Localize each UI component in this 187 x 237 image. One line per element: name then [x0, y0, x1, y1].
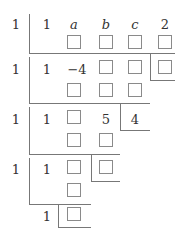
coef-2-0: 1	[43, 63, 51, 77]
blank-box	[67, 83, 81, 97]
blank-box	[67, 133, 81, 147]
divisor-4: 1	[12, 163, 20, 177]
coef-5-0: 1	[43, 210, 51, 224]
remainder-divider-vertical	[58, 204, 59, 228]
remainder-divider-vertical	[150, 53, 151, 80]
coef-1-0: 1	[43, 18, 51, 32]
coef-b: b	[102, 18, 110, 32]
remainder-blank-box	[99, 160, 113, 174]
coef-4-0: 1	[43, 163, 51, 177]
remainder-divider-horizontal	[150, 80, 175, 81]
remainder-divider-horizontal	[120, 130, 150, 131]
divisor-1: 1	[12, 18, 20, 32]
blank-box	[128, 83, 142, 97]
coef-c: c	[131, 18, 138, 32]
divisor-3: 1	[12, 113, 20, 127]
divider-horizontal	[29, 154, 120, 155]
blank-box	[158, 35, 172, 49]
coef-minus-4: −4	[67, 63, 86, 77]
remainder-4: 4	[131, 113, 139, 127]
blank-box	[99, 60, 113, 74]
blank-box	[67, 110, 81, 124]
divider-vertical	[29, 14, 30, 54]
divider-vertical	[29, 158, 30, 204]
blank-box	[99, 83, 113, 97]
blank-box	[99, 35, 113, 49]
remainder-divider-horizontal	[91, 181, 120, 182]
divider-vertical	[29, 107, 30, 154]
blank-box	[128, 35, 142, 49]
coef-2: 2	[161, 18, 169, 32]
blank-box	[67, 160, 81, 174]
coef-3-0: 1	[43, 113, 51, 127]
remainder-divider-vertical	[91, 154, 92, 181]
blank-box	[128, 60, 142, 74]
remainder-divider-horizontal	[58, 227, 91, 228]
coef-5: 5	[102, 113, 110, 127]
blank-box	[99, 133, 113, 147]
divider-horizontal	[29, 103, 150, 104]
coef-a: a	[70, 18, 78, 32]
divisor-2: 1	[12, 63, 20, 77]
remainder-blank-box	[67, 207, 81, 221]
remainder-divider-vertical	[120, 103, 121, 131]
divider-vertical	[29, 57, 30, 103]
blank-box	[67, 35, 81, 49]
divider-horizontal	[29, 53, 175, 54]
remainder-blank-box	[158, 60, 172, 74]
divider-horizontal	[29, 204, 91, 205]
blank-box	[67, 183, 81, 197]
